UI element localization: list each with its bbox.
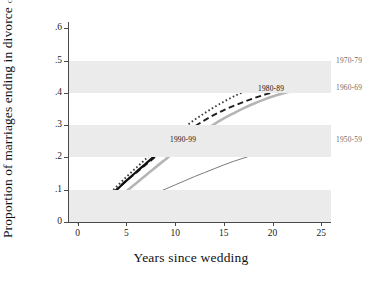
y-tick-mark [64,93,68,94]
y-tick-label: .2 [55,153,62,163]
x-tick-mark [78,222,79,226]
y-axis-title: Proportion of marriages ending in divorc… [0,7,16,238]
series-label-1960-69: 1960-69 [336,84,362,91]
y-tick-label: 0 [57,217,62,227]
x-axis-title: Years since wedding [0,250,382,266]
series-label-1970-79: 1970-79 [336,57,362,64]
series-label-1980-89: 1980-89 [258,85,284,92]
divorce-proportion-line-chart: Proportion of marriages ending in divorc… [0,0,382,281]
y-axis-subtitle: Conditional on being married but not wid… [6,0,13,3]
x-tick-label: 10 [170,229,180,239]
x-tick-mark [126,222,127,226]
y-axis-line [68,22,69,222]
series-label-1950-59: 1950-59 [336,136,362,143]
y-tick-label: .5 [55,56,62,66]
x-tick-mark [175,222,176,226]
y-tick-mark [64,61,68,62]
y-tick-label: .6 [55,24,62,34]
plot-area: 0.1.2.3.4.5.6 0510152025 [68,22,331,222]
y-tick-mark [64,222,68,223]
y-tick-mark [64,157,68,158]
y-tick-label: .4 [55,88,62,98]
x-tick-mark [273,222,274,226]
x-tick-label: 5 [124,229,129,239]
background-band [68,61,331,93]
x-tick-mark [321,222,322,226]
y-tick-label: .3 [55,120,62,130]
y-tick-mark [64,190,68,191]
x-tick-label: 15 [219,229,229,239]
x-tick-label: 25 [317,229,327,239]
background-band [68,125,331,157]
x-axis-line [68,222,331,223]
y-tick-label: .1 [55,185,62,195]
x-tick-label: 20 [268,229,278,239]
x-tick-mark [224,222,225,226]
y-tick-mark [64,125,68,126]
background-band [68,190,331,222]
y-axis-title-container: Proportion of marriages ending in divorc… [0,0,40,240]
y-tick-mark [64,28,68,29]
series-label-1990-99: 1990-99 [170,136,196,143]
x-tick-label: 0 [75,229,80,239]
